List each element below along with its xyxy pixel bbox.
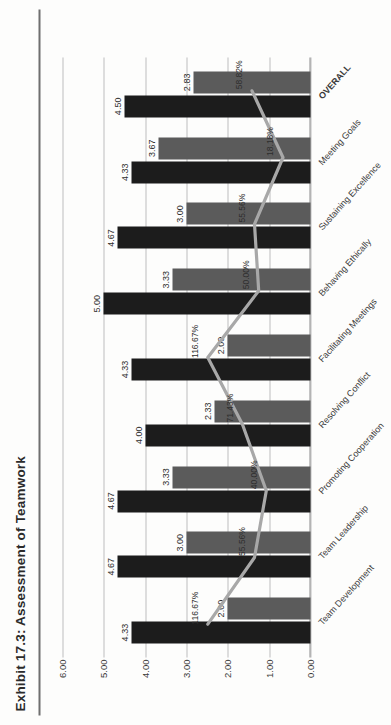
title-area: Exhibit 17.3: Assessment of Teamwork xyxy=(0,0,44,725)
bar-group: 4.673.33Promoting Cooperation xyxy=(62,456,310,522)
category-label: Promoting Cooperation xyxy=(316,420,385,495)
category-label: Team Leadership xyxy=(316,503,370,561)
bar-value-label: 3.33 xyxy=(160,270,170,288)
page-title: Exhibit 17.3: Assessment of Teamwork xyxy=(12,455,27,711)
bar-value-label: 4.33 xyxy=(119,163,129,181)
bar-value-label: 4.33 xyxy=(119,360,129,378)
bar-group: 4.332.00Facilitating Meetings xyxy=(62,324,310,390)
bar-group: 4.673.00Team Leadership xyxy=(62,521,310,587)
y-axis-tick-label: 6.00 xyxy=(57,659,68,678)
y-axis-tick-label: 2.00 xyxy=(222,659,233,678)
percent-value-label: 116.67% xyxy=(189,591,199,624)
category-label: Behaving Ethically xyxy=(316,237,373,298)
category-label: Resolving Conflict xyxy=(316,369,372,429)
y-axis-tick-label: 5.00 xyxy=(98,659,109,678)
bar-group: 5.003.33Behaving Ethically xyxy=(62,258,310,324)
bar-mid-bars[interactable]: 3.67 xyxy=(158,137,310,159)
category-label: Facilitating Meetings xyxy=(316,296,378,364)
category-label: OVERALL xyxy=(316,62,352,101)
bar-group: 4.502.83OVERALL xyxy=(62,61,310,127)
bar-value-label: 3.33 xyxy=(160,468,170,486)
bar-mid-bars[interactable]: 2.83 xyxy=(193,71,310,93)
bar-dark-bars[interactable]: 5.00 xyxy=(103,292,310,314)
chart-plot-area: 6.005.004.003.002.001.000.00 4.332.00Tea… xyxy=(62,57,310,657)
bar-value-label: 5.00 xyxy=(91,294,101,312)
bar-value-label: 4.50 xyxy=(112,97,122,115)
y-axis-tick-label: 1.00 xyxy=(263,659,274,678)
bar-value-label: 2.00 xyxy=(215,599,225,617)
bar-dark-bars[interactable]: 4.67 xyxy=(117,226,310,248)
bar-group: 4.002.33Resolving Conflict xyxy=(62,390,310,456)
bar-mid-bars[interactable]: 3.33 xyxy=(172,466,310,488)
category-label: Meeting Goals xyxy=(316,117,362,167)
bar-value-label: 2.33 xyxy=(202,402,212,420)
percent-value-label: 116.67% xyxy=(189,325,199,358)
percent-value-label: 55.56% xyxy=(236,193,246,222)
percent-value-label: 50.00% xyxy=(240,260,250,289)
category-label: Team Development xyxy=(316,562,375,626)
title-divider xyxy=(38,9,40,715)
bar-mid-bars[interactable]: 2.00 xyxy=(227,597,310,619)
bar-value-label: 2.83 xyxy=(181,73,191,91)
bar-mid-bars[interactable]: 3.00 xyxy=(186,531,310,553)
figure-sheet: Exhibit 17.3: Assessment of Teamwork 6.0… xyxy=(0,0,391,725)
bar-group: 4.332.00Team Development xyxy=(62,587,310,653)
bar-dark-bars[interactable]: 4.33 xyxy=(131,161,310,183)
category-label: Sustaining Excellence xyxy=(316,160,382,232)
percent-value-label: 55.56% xyxy=(236,527,246,556)
bar-group: 4.673.00Sustaining Excellence xyxy=(62,193,310,259)
bar-value-label: 3.00 xyxy=(174,534,184,552)
bar-value-label: 4.00 xyxy=(133,426,143,444)
bar-mid-bars[interactable]: 2.00 xyxy=(227,334,310,356)
bar-dark-bars[interactable]: 4.33 xyxy=(131,621,310,643)
y-axis-tick-label: 0.00 xyxy=(305,659,316,678)
bar-value-label: 4.67 xyxy=(105,558,115,576)
percent-value-label: 40.00% xyxy=(248,460,258,489)
bar-value-label: 4.67 xyxy=(105,229,115,247)
bar-value-label: 4.33 xyxy=(119,623,129,641)
bar-dark-bars[interactable]: 4.00 xyxy=(145,424,310,446)
bar-mid-bars[interactable]: 3.00 xyxy=(186,202,310,224)
percent-value-label: 58.82% xyxy=(233,60,243,89)
percent-value-label: 18.18% xyxy=(264,127,274,156)
bar-value-label: 3.67 xyxy=(146,139,156,157)
y-axis-tick-label: 3.00 xyxy=(181,659,192,678)
bar-value-label: 3.00 xyxy=(174,205,184,223)
bar-dark-bars[interactable]: 4.33 xyxy=(131,358,310,380)
bar-dark-bars[interactable]: 4.67 xyxy=(117,490,310,512)
bar-value-label: 4.67 xyxy=(105,492,115,510)
y-axis-tick-label: 4.00 xyxy=(139,659,150,678)
bar-dark-bars[interactable]: 4.50 xyxy=(124,95,310,117)
bar-value-label: 2.00 xyxy=(215,336,225,354)
percent-value-label: 71.43% xyxy=(224,393,234,422)
rotated-page-wrapper: Exhibit 17.3: Assessment of Teamwork 6.0… xyxy=(0,0,391,725)
bar-dark-bars[interactable]: 4.67 xyxy=(117,555,310,577)
